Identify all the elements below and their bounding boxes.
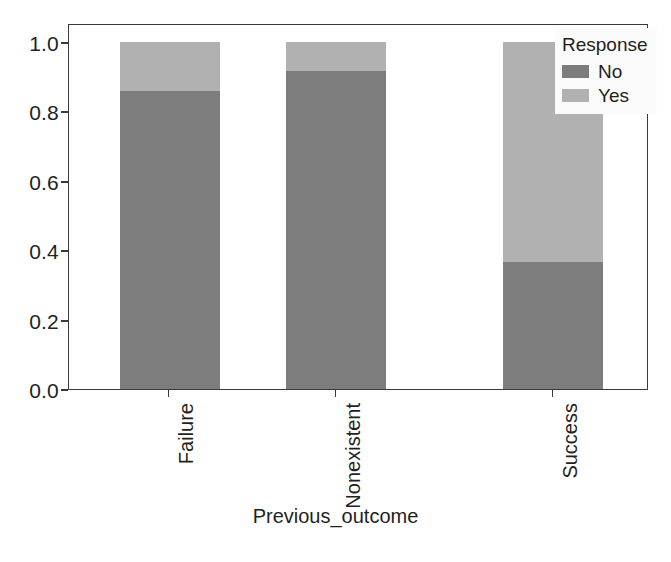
legend-swatch-yes [562, 89, 589, 102]
y-axis: 1.0 0.8 0.6 0.4 0.2 0.0 [0, 0, 68, 562]
y-tick-mark [61, 389, 68, 390]
bar-failure[interactable] [120, 42, 220, 389]
x-tick-label-nonexistent: Nonexistent [343, 403, 363, 509]
legend-item-yes[interactable]: Yes [562, 83, 648, 107]
y-tick-mark [61, 181, 68, 182]
bar-segment-no [503, 262, 603, 389]
legend-label-no: No [598, 62, 622, 81]
y-tick-mark [61, 320, 68, 321]
bar-segment-no [120, 91, 220, 389]
legend-label-yes: Yes [598, 86, 629, 105]
y-tick-mark [61, 111, 68, 112]
x-tick-mark-nonexistent [335, 390, 336, 397]
x-axis-title: Previous_outcome [0, 505, 671, 527]
bar-segment-yes [120, 42, 220, 91]
legend-title: Response [562, 33, 648, 56]
y-tick-mark [61, 250, 68, 251]
x-tick-mark-success [552, 390, 553, 397]
bar-nonexistent[interactable] [286, 42, 386, 389]
x-tick-mark-failure [168, 390, 169, 397]
x-tick-label-success: Success [560, 403, 580, 479]
stacked-bar-chart-figure: 1.0 0.8 0.6 0.4 0.2 0.0 [0, 0, 671, 562]
bar-segment-no [286, 71, 386, 389]
legend-item-no[interactable]: No [562, 59, 648, 83]
bar-segment-yes [286, 42, 386, 71]
legend-swatch-no [562, 65, 589, 78]
legend: Response No Yes [555, 28, 657, 114]
y-tick-mark [61, 42, 68, 43]
x-tick-label-failure: Failure [176, 403, 196, 464]
